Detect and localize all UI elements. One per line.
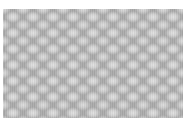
fabric-texture-image xyxy=(3,9,183,118)
